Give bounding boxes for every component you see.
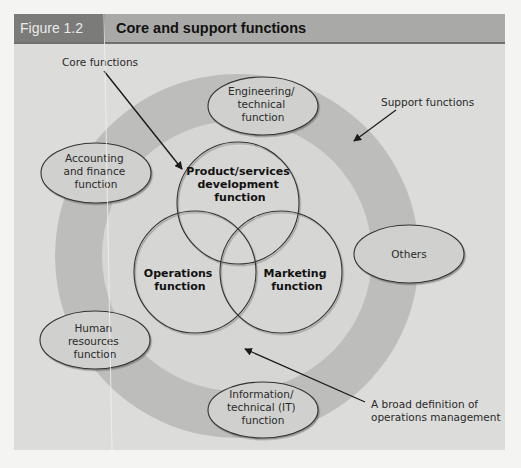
marketing-label: Marketing function — [264, 267, 331, 293]
others-label: Others — [391, 248, 426, 260]
core-functions-annotation: Core functions — [62, 56, 138, 68]
operations-label: Operations function — [144, 267, 216, 293]
support-ellipse-accounting: Accounting and finance function — [41, 143, 151, 203]
core-support-diagram: Product/services development function Op… — [0, 0, 521, 468]
support-ellipse-human-resources: Human resources function — [40, 311, 150, 369]
support-ellipse-engineering: Engineering/ technical function — [208, 77, 318, 135]
human-resources-label: Human resources function — [68, 322, 122, 360]
page: Figure 1.2 Core and support functions Pr… — [0, 0, 521, 468]
support-functions-annotation: Support functions — [381, 96, 474, 108]
support-ellipse-information-technology: Information/ technical (IT) function — [208, 382, 318, 438]
support-ellipse-others: Others — [354, 225, 464, 283]
broad-definition-annotation: A broad definition of operations managem… — [371, 398, 501, 423]
